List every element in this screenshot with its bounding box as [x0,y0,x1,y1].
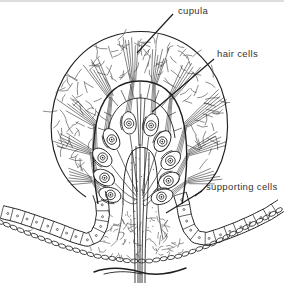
supporting-cell-nucleus [7,213,9,215]
hair-cells-label: hair cells [217,48,258,59]
supporting-cell-nucleus [56,229,58,231]
supporting-cell-nucleus [220,234,222,236]
stereocilia-bundle [188,132,226,156]
supporting-cell-nucleus [186,220,188,222]
supporting-cell-band-left [0,191,109,246]
supporting-cell-nucleus [86,239,88,241]
stereocilia-bundle [68,168,93,185]
stereocilia-bundle [57,95,97,126]
hair-cell [97,185,123,206]
diagram-canvas: cupula hair cells supporting cells [0,0,284,287]
supporting-cell-nucleus [75,236,77,238]
supporting-cell-nucleus [183,209,185,211]
supporting-cell-nucleus [17,215,19,217]
supporting-cell-nucleus [100,226,102,228]
supporting-cell-nucleus [102,216,104,218]
crista-ampullaris-figure: cupula hair cells supporting cells [0,0,284,287]
supporting-cell-nucleus [101,204,103,206]
hair-cell [149,185,175,207]
supporting-cell-nucleus [26,218,28,220]
supporting-cell-nucleus [36,221,38,223]
supporting-cell-nucleus [47,225,49,227]
cupula-label: cupula [178,5,208,16]
bone-surface-bead-line [0,207,283,263]
connective-tissue-texture [29,210,184,261]
stereocilia-bundle [53,133,92,155]
supporting-cell-nucleus [229,230,231,232]
supporting-cells-label: supporting cells [206,181,278,192]
supporting-cell-nucleus [190,229,192,231]
supporting-cell-nucleus [95,235,97,237]
hair-cell [119,111,137,135]
supporting-cell-nucleus [66,232,68,234]
core-wall-left [117,205,123,240]
stereocilia-bundle [151,48,169,85]
annotations: cupula hair cells supporting cells [137,5,278,213]
supporting-cell-nucleus [198,237,200,239]
nerve-exit-wave-echo [104,272,142,274]
supporting-cell-nucleus [208,237,210,239]
